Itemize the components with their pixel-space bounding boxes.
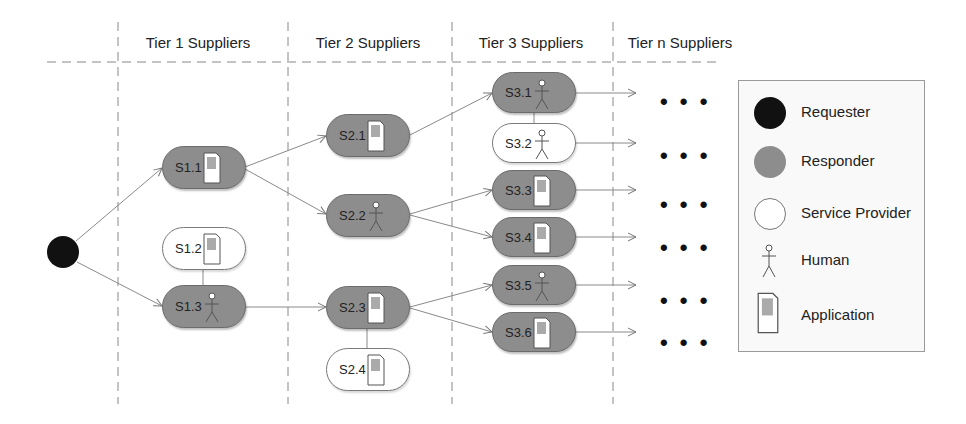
continuation-dots: • • • xyxy=(660,151,710,161)
node-s3-2: S3.2 xyxy=(492,123,576,163)
node-s2-1: S2.1 xyxy=(326,114,410,157)
node-s1-1: S1.1 xyxy=(162,146,246,189)
continuation-dots: • • • xyxy=(660,200,710,210)
node-s3-4: S3.4 xyxy=(492,217,576,257)
node-s2-3: S2.3 xyxy=(326,286,410,329)
node-label: S2.3 xyxy=(339,300,366,315)
node-label: S3.3 xyxy=(505,183,532,198)
legend-label: Service Provider xyxy=(801,204,911,221)
legend-item-human: Human xyxy=(739,241,924,281)
node-label: S2.2 xyxy=(339,208,366,223)
application-icon xyxy=(533,175,551,207)
legend-label: Requester xyxy=(801,103,870,120)
application-icon xyxy=(757,292,779,334)
node-label: S1.3 xyxy=(175,299,202,314)
node-s3-6: S3.6 xyxy=(492,312,576,352)
node-label: S3.5 xyxy=(505,278,532,293)
node-label: S1.1 xyxy=(175,160,202,175)
node-s3-1: S3.1 xyxy=(492,72,576,113)
node-label: S3.2 xyxy=(505,136,532,151)
node-s2-4: S2.4 xyxy=(326,348,410,391)
header-tier-2: Tier 2 Suppliers xyxy=(316,34,421,51)
node-label: S3.1 xyxy=(505,85,532,100)
human-icon xyxy=(203,291,221,323)
node-label: S3.4 xyxy=(505,230,532,245)
application-icon xyxy=(203,152,221,184)
node-s2-2: S2.2 xyxy=(326,194,410,237)
application-icon xyxy=(367,120,385,152)
application-icon xyxy=(533,317,551,349)
node-label: S1.2 xyxy=(175,241,202,256)
continuation-dots: • • • xyxy=(660,97,710,107)
header-tier-1: Tier 1 Suppliers xyxy=(146,34,251,51)
legend-item-application: Application xyxy=(739,296,924,336)
human-icon xyxy=(533,128,551,160)
human-icon xyxy=(533,78,551,110)
legend-item-requester: Requester xyxy=(739,93,924,133)
human-icon xyxy=(759,244,779,278)
legend-item-service-provider: Service Provider xyxy=(739,194,924,234)
node-s3-5: S3.5 xyxy=(492,265,576,305)
legend-item-responder: Responder xyxy=(739,142,924,182)
node-label: S3.6 xyxy=(505,325,532,340)
header-tier-3: Tier 3 Suppliers xyxy=(479,34,584,51)
human-icon xyxy=(533,270,551,302)
requester-node xyxy=(47,236,79,268)
header-tier-n: Tier n Suppliers xyxy=(628,34,733,51)
continuation-dots: • • • xyxy=(660,296,710,306)
application-icon xyxy=(533,222,551,254)
continuation-dots: • • • xyxy=(660,243,710,253)
black-circle-icon xyxy=(753,96,787,130)
application-icon xyxy=(367,292,385,324)
node-label: S2.4 xyxy=(339,362,366,377)
node-s3-3: S3.3 xyxy=(492,170,576,210)
human-icon xyxy=(367,200,385,232)
legend: Requester Responder Service Provider Hum… xyxy=(738,80,925,352)
node-s1-2: S1.2 xyxy=(162,227,246,270)
continuation-dots: • • • xyxy=(660,338,710,348)
node-label: S2.1 xyxy=(339,128,366,143)
legend-label: Responder xyxy=(801,152,874,169)
application-icon xyxy=(367,354,385,386)
node-s1-3: S1.3 xyxy=(162,285,246,328)
gray-circle-icon xyxy=(753,145,787,179)
white-circle-icon xyxy=(753,197,787,231)
application-icon xyxy=(203,233,221,265)
supplier-tier-diagram: Tier 1 Suppliers Tier 2 Suppliers Tier 3… xyxy=(0,0,966,424)
legend-label: Application xyxy=(801,306,874,323)
legend-label: Human xyxy=(801,251,849,268)
